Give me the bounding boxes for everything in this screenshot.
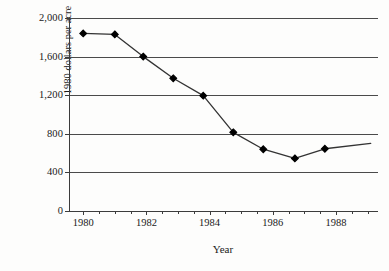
x-minor-tick-mark: [352, 211, 353, 214]
x-tick-label-1988: 1988: [311, 217, 361, 228]
x-tick-label-1980: 1980: [58, 217, 108, 228]
x-minor-tick-mark: [178, 211, 179, 214]
x-minor-tick-mark: [131, 211, 132, 214]
x-tick-mark-1980: [83, 211, 84, 215]
y-tick-label-1600: 1,600: [3, 52, 63, 63]
x-tick-label-1984: 1984: [185, 217, 235, 228]
gridline-1200: [70, 95, 378, 96]
y-tick-label-2000: 2,000: [3, 13, 63, 24]
gridline-1600: [70, 57, 378, 58]
x-minor-tick-mark: [162, 211, 163, 214]
y-tick-label-400: 400: [3, 167, 63, 178]
x-minor-tick-mark: [225, 211, 226, 214]
x-minor-tick-mark: [257, 211, 258, 214]
x-minor-tick-mark: [368, 211, 369, 214]
x-tick-mark-1984: [210, 211, 211, 215]
x-tick-label-1986: 1986: [248, 217, 298, 228]
x-minor-tick-mark: [99, 211, 100, 214]
y-tick-label-1200: 1,200: [3, 90, 63, 101]
x-tick-mark-1982: [146, 211, 147, 215]
x-minor-tick-mark: [115, 211, 116, 214]
x-minor-tick-mark: [304, 211, 305, 214]
plot-area: [69, 18, 377, 211]
y-tick-label-800: 800: [3, 129, 63, 140]
y-tick-label-0: 0: [3, 206, 63, 217]
chart-figure: 1980 dollars per acre 2,0001,6001,200800…: [0, 0, 389, 271]
x-minor-tick-mark: [241, 211, 242, 214]
x-minor-tick-mark: [194, 211, 195, 214]
x-minor-tick-mark: [320, 211, 321, 214]
x-tick-label-1982: 1982: [121, 217, 171, 228]
x-axis-title: Year: [69, 243, 377, 255]
gridline-800: [70, 134, 378, 135]
x-tick-mark-1986: [273, 211, 274, 215]
x-minor-tick-mark: [289, 211, 290, 214]
x-tick-mark-1988: [336, 211, 337, 215]
gridline-2000: [70, 18, 378, 19]
gridline-400: [70, 172, 378, 173]
